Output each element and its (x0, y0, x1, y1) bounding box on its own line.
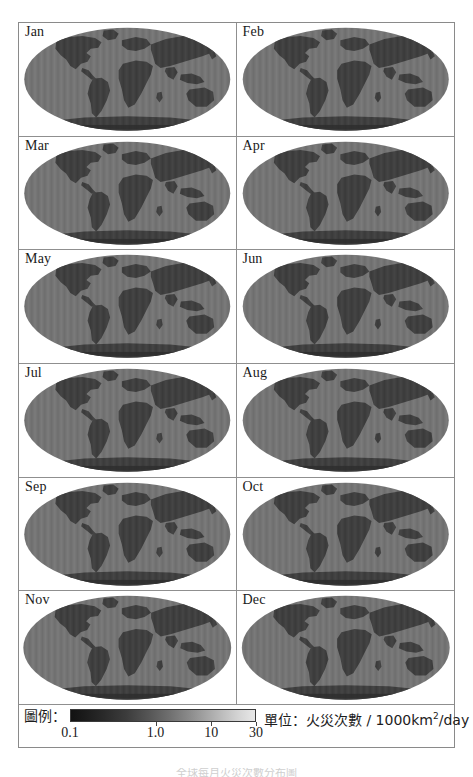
panel-label-may: May (25, 251, 51, 266)
map-graphic (19, 137, 236, 250)
polar-band (20, 239, 235, 250)
figure-caption: 全球每月火災次數分布圖 (0, 768, 473, 777)
panel-label-dec: Dec (243, 592, 266, 607)
mollweide-map-feb (237, 23, 455, 136)
polar-band (20, 580, 235, 591)
map-panel-jan: Jan (19, 23, 237, 137)
map-panel-sep: Sep (19, 478, 237, 592)
map-panel-may: May (19, 250, 237, 364)
panel-label-sep: Sep (25, 479, 47, 494)
polar-band (238, 466, 453, 477)
mollweide-map-nov (19, 591, 236, 705)
map-panel-jun: Jun (237, 250, 455, 364)
map-panel-mar: Mar (19, 137, 237, 251)
polar-band (20, 352, 235, 363)
map-panel-oct: Oct (237, 478, 455, 592)
legend-panel: 圖例： 0.11.01030 單位：火災次數 / 1000km2/day (19, 704, 454, 747)
map-graphic (237, 137, 455, 250)
panel-label-jun: Jun (243, 251, 263, 266)
mollweide-map-jan (19, 23, 236, 136)
map-graphic (19, 250, 236, 363)
legend-title: 圖例： (24, 708, 66, 724)
polar-band (238, 125, 453, 136)
map-panel-dec: Dec (237, 591, 455, 705)
map-panel-aug: Aug (237, 364, 455, 478)
map-graphic (19, 591, 236, 705)
panel-label-aug: Aug (243, 365, 268, 380)
panel-label-jan: Jan (25, 24, 44, 39)
map-graphic (237, 250, 455, 363)
map-panel-apr: Apr (237, 137, 455, 251)
panel-label-nov: Nov (25, 592, 50, 607)
mollweide-map-jun (237, 250, 455, 363)
map-graphic (237, 364, 455, 477)
panel-label-mar: Mar (25, 138, 49, 153)
panel-label-oct: Oct (243, 479, 264, 494)
mollweide-map-may (19, 250, 236, 363)
panel-label-feb: Feb (243, 24, 265, 39)
mollweide-map-aug (237, 364, 455, 477)
map-graphic (19, 23, 236, 136)
polar-band (238, 239, 453, 250)
mollweide-map-oct (237, 478, 455, 591)
map-graphic (237, 478, 455, 591)
mollweide-map-jul (19, 364, 236, 477)
map-panel-feb: Feb (237, 23, 455, 137)
colorbar-tick-label: 30 (249, 725, 263, 741)
legend-unit-prefix: 單位：火災次數 / 1000km (264, 712, 433, 728)
colorbar-tick-label: 1.0 (147, 725, 165, 741)
legend-unit-suffix: /day (439, 712, 469, 728)
mollweide-map-mar (19, 137, 236, 250)
colorbar-tick-label: 10 (204, 725, 218, 741)
map-panel-nov: Nov (19, 591, 237, 705)
map-graphic (19, 364, 236, 477)
mollweide-map-sep (19, 478, 236, 591)
panel-label-jul: Jul (25, 365, 42, 380)
month-panel-grid: JanFebMarAprMayJunJulAugSepOctNovDec (19, 23, 454, 705)
polar-band (20, 125, 235, 136)
polar-band (238, 352, 453, 363)
figure-frame: JanFebMarAprMayJunJulAugSepOctNovDec 圖例：… (18, 22, 455, 748)
colorbar-tick-label: 0.1 (61, 725, 79, 741)
colorbar-gradient (70, 709, 256, 722)
map-graphic (19, 478, 236, 591)
mollweide-map-apr (237, 137, 455, 250)
map-panel-jul: Jul (19, 364, 237, 478)
polar-band (238, 580, 453, 591)
map-graphic (237, 591, 455, 705)
mollweide-map-dec (237, 591, 455, 705)
legend-unit-label: 單位：火災次數 / 1000km2/day (264, 707, 469, 729)
panel-label-apr: Apr (243, 138, 265, 153)
map-graphic (237, 23, 455, 136)
polar-band (20, 466, 235, 477)
